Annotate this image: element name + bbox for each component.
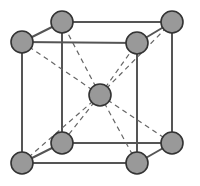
atom-back-bottom-right [161, 132, 183, 154]
atom-front-top-left [11, 31, 33, 53]
front-face-edge-0 [22, 42, 137, 43]
atom-back-bottom-left [51, 132, 73, 154]
bcc-unit-cell-figure [0, 0, 200, 186]
atom-front-bottom-right [126, 152, 148, 174]
atom-body-center [89, 84, 111, 106]
crystal-lattice-diagram [0, 0, 200, 186]
atom-front-bottom-left [11, 152, 33, 174]
atom-back-top-right [161, 11, 183, 33]
atom-back-top-left [51, 11, 73, 33]
atom-front-top-right [126, 32, 148, 54]
